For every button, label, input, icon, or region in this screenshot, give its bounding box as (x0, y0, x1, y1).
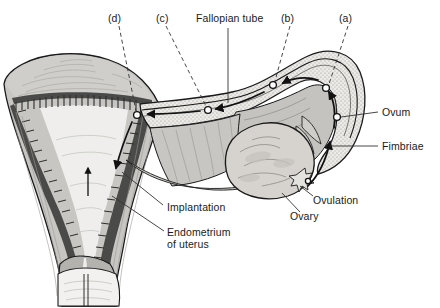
ovum-marker-labelled (334, 114, 341, 121)
label-implantation: Implantation (167, 201, 225, 214)
label-stage-a: (a) (339, 12, 352, 25)
label-endometrium-line1: Endometrium (167, 226, 231, 239)
uterus-group (4, 54, 162, 306)
leader-c (166, 26, 206, 106)
label-ovulation: Ovulation (313, 194, 358, 207)
label-ovary: Ovary (290, 210, 319, 223)
label-fimbriae: Fimbriae (382, 140, 424, 153)
ovum-marker-released (305, 178, 310, 183)
ovum-marker-d (134, 112, 141, 119)
ovum-marker-b (270, 82, 277, 89)
ovary-group (225, 123, 314, 199)
label-ovum: Ovum (382, 106, 410, 119)
anatomical-figure: (d) (c) Fallopian tube (b) (a) Ovum Fimb… (0, 0, 440, 308)
label-fallopian-tube: Fallopian tube (196, 12, 263, 25)
reproductive-tract-illustration (0, 0, 440, 308)
label-stage-d: (d) (108, 12, 121, 25)
cervix-lower-lip (58, 268, 120, 306)
label-endometrium-line2: of uterus (167, 238, 209, 251)
label-stage-c: (c) (156, 12, 169, 25)
ovum-marker-c (205, 107, 212, 114)
label-stage-b: (b) (281, 12, 294, 25)
ovum-marker-a (323, 85, 330, 92)
